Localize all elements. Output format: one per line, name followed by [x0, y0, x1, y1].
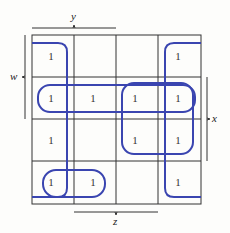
label-x: x	[211, 112, 217, 124]
bracket-w	[22, 35, 25, 119]
label-y: y	[70, 10, 76, 22]
cell-r3c4: 1	[175, 134, 181, 146]
cell-r1c4: 1	[175, 50, 181, 62]
label-z: z	[112, 215, 118, 227]
karnaugh-map: y w x z 1 1 1 1 1 1 1 1 1	[0, 0, 230, 233]
loop-right-column	[165, 43, 201, 197]
cell-r3c3: 1	[132, 134, 138, 146]
loop-left-column	[32, 43, 67, 197]
cell-r4c4: 1	[175, 176, 181, 188]
cell-r4c1: 1	[48, 176, 54, 188]
bracket-x	[207, 77, 210, 161]
cell-r2c4: 1	[175, 92, 181, 104]
bracket-y	[32, 25, 116, 28]
cell-r2c3: 1	[132, 92, 138, 104]
cell-r4c2: 1	[90, 176, 96, 188]
label-w: w	[10, 70, 18, 82]
cell-r1c1: 1	[48, 50, 54, 62]
cell-r2c2: 1	[90, 92, 96, 104]
cell-r3c1: 1	[48, 134, 54, 146]
cell-r2c1: 1	[48, 92, 54, 104]
